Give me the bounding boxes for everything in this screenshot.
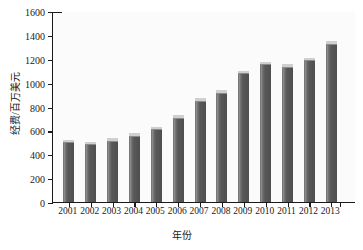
y-tick-label: 600 bbox=[30, 126, 45, 137]
x-tick-label: 2008 bbox=[211, 206, 230, 216]
x-tick-label: 2013 bbox=[321, 206, 340, 216]
bar-chart: 经费/百万美元 02004006008001000120014001600 20… bbox=[0, 0, 363, 250]
bar-cap bbox=[326, 41, 337, 45]
bar-cap bbox=[63, 140, 74, 144]
bar-cap bbox=[151, 127, 162, 131]
x-tick-label: 2002 bbox=[80, 206, 99, 216]
bar bbox=[107, 138, 118, 202]
x-tick-label: 2010 bbox=[255, 206, 274, 216]
y-tick bbox=[48, 203, 53, 204]
bar bbox=[151, 127, 162, 202]
bar bbox=[195, 98, 206, 202]
bar bbox=[282, 64, 293, 202]
y-tick-label: 200 bbox=[30, 174, 45, 185]
bar bbox=[238, 71, 249, 202]
bar-cap bbox=[260, 62, 271, 66]
y-tick-label: 1600 bbox=[25, 7, 45, 18]
plot-area: 02004006008001000120014001600 bbox=[52, 12, 355, 203]
x-tick-label: 2011 bbox=[277, 206, 296, 216]
frame-corner-stub bbox=[53, 12, 62, 13]
bar-cap bbox=[173, 115, 184, 119]
y-tick-label: 1400 bbox=[25, 30, 45, 41]
y-tick-label: 400 bbox=[30, 150, 45, 161]
bar bbox=[85, 142, 96, 202]
bar-cap bbox=[107, 138, 118, 142]
y-tick-label: 1200 bbox=[25, 54, 45, 65]
y-tick bbox=[48, 84, 53, 85]
x-tick-label: 2003 bbox=[102, 206, 121, 216]
y-tick-label: 1000 bbox=[25, 78, 45, 89]
bar-cap bbox=[195, 98, 206, 102]
bar-cap bbox=[85, 142, 96, 146]
x-axis-title: 年份 bbox=[0, 227, 363, 242]
bar-cap bbox=[282, 64, 293, 68]
y-tick bbox=[48, 36, 53, 37]
bar bbox=[216, 90, 227, 202]
x-tick-label: 2004 bbox=[124, 206, 143, 216]
x-tick-label: 2007 bbox=[190, 206, 209, 216]
y-tick-label: 800 bbox=[30, 102, 45, 113]
x-tick-label: 2005 bbox=[146, 206, 165, 216]
bar-cap bbox=[238, 71, 249, 75]
y-tick bbox=[48, 179, 53, 180]
y-tick bbox=[48, 131, 53, 132]
bar bbox=[260, 62, 271, 202]
bar bbox=[129, 133, 140, 202]
y-tick bbox=[48, 12, 53, 13]
bar bbox=[304, 58, 315, 202]
bar-cap bbox=[216, 90, 227, 94]
x-tick-label: 2012 bbox=[299, 206, 318, 216]
y-axis-title: 经费/百万美元 bbox=[7, 44, 22, 164]
y-tick bbox=[48, 155, 53, 156]
y-tick bbox=[48, 108, 53, 109]
bar bbox=[173, 115, 184, 202]
x-tick-label: 2009 bbox=[233, 206, 252, 216]
y-tick-label: 0 bbox=[40, 198, 45, 209]
bar-cap bbox=[304, 58, 315, 62]
y-tick bbox=[48, 60, 53, 61]
bar bbox=[63, 140, 74, 202]
x-tick-label: 2001 bbox=[58, 206, 77, 216]
x-tick-label: 2006 bbox=[168, 206, 187, 216]
bar-cap bbox=[129, 133, 140, 137]
bar bbox=[326, 41, 337, 202]
